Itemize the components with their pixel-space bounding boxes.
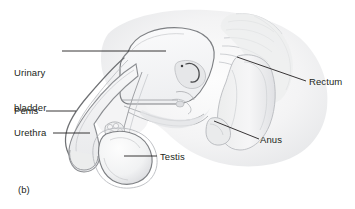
- label-rectum: Rectum: [309, 76, 342, 88]
- label-penis: Penis: [14, 105, 38, 117]
- testis-structure: [99, 131, 153, 184]
- label-urethra: Urethra: [14, 127, 46, 139]
- label-urinary-bladder: Urinary bladder: [14, 44, 46, 136]
- label-anus: Anus: [260, 134, 282, 146]
- figure-male-reproductive-system: Urinary bladder Penis Urethra Testis Rec…: [0, 0, 355, 209]
- label-testis: Testis: [160, 151, 185, 163]
- anatomy-illustration: [0, 0, 355, 209]
- label-urinary-bladder-line1: Urinary: [14, 67, 46, 79]
- figure-caption: (b): [18, 184, 30, 195]
